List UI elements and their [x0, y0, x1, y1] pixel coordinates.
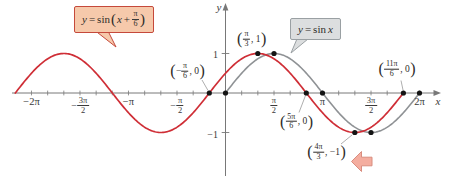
eq-equals: = [305, 24, 311, 35]
point-marker [401, 90, 406, 95]
eq-open-paren: ( [111, 13, 116, 26]
eq-close-paren: ) [140, 13, 145, 26]
sine-shift-figure: −2π−3π2−π−π2π2π3π22π(−π6, 0)(π3, 1)(5π6,… [0, 0, 451, 183]
sine-plot-canvas [0, 0, 451, 183]
label-connector [401, 81, 403, 91]
x-tick-label: π [320, 97, 325, 108]
point-marker [304, 90, 309, 95]
eq-plus: + [124, 14, 130, 25]
x-tick-label: −3π2 [71, 96, 89, 116]
eq-equals: = [89, 14, 95, 25]
point-marker [255, 51, 260, 56]
eq-var-x: x [328, 24, 333, 35]
point-label: (π3, 1) [237, 30, 267, 49]
point-marker [271, 51, 276, 56]
point-marker [417, 90, 422, 95]
emphasis-left-arrow-icon [352, 152, 373, 172]
x-tick-label: 3π2 [365, 96, 377, 116]
y-axis-label: y [217, 1, 222, 13]
eq-var-x: x [117, 14, 122, 25]
x-tick-label: π2 [270, 96, 277, 116]
eq-var-y: y [298, 24, 303, 35]
point-marker [223, 90, 228, 95]
point-label: (11π6, 0) [378, 60, 416, 79]
point-label: (4π3, −1) [307, 143, 347, 162]
eq-fraction: π6 [132, 10, 139, 29]
point-marker [207, 90, 212, 95]
point-marker [320, 90, 325, 95]
x-tick-label: −2π [23, 97, 39, 108]
x-tick-label: −π2 [170, 96, 183, 116]
eq-fn: sin [97, 14, 110, 25]
y-axis-arrowhead [223, 3, 229, 11]
label-connector [202, 80, 208, 91]
point-label: (−π6, 0) [170, 62, 206, 81]
label-connector [299, 96, 306, 113]
point-marker [368, 130, 373, 135]
eq-var-y: y [82, 14, 87, 25]
x-axis-label: x [436, 95, 441, 107]
gray-curve-equation-callout: y = sin x [290, 18, 341, 40]
eq-fn: sin [313, 24, 326, 35]
point-marker [352, 130, 357, 135]
point-label: (5π6, 0) [279, 112, 313, 131]
y-tick-label-neg-1: −1 [207, 129, 218, 140]
y-tick-label-1: 1 [213, 49, 218, 60]
x-tick-label: −π [123, 97, 134, 108]
red-curve-equation-callout: y = sin ( x + π6 ) [74, 6, 154, 33]
x-tick-label: 2π [414, 97, 425, 108]
